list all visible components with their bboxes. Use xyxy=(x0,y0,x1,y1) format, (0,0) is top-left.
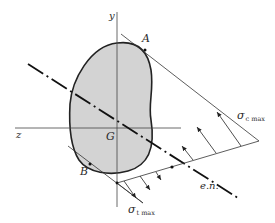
sigma-c-subscript: c max xyxy=(246,115,265,123)
sigma-c-max-label: σc max xyxy=(237,110,265,123)
sigma-c-symbol: σ xyxy=(237,109,245,122)
z-axis-label: z xyxy=(16,130,21,140)
stress-diagram xyxy=(0,0,275,223)
point-a-dot xyxy=(144,49,147,52)
sigma-t-max-label: σt max xyxy=(128,204,155,217)
neutral-point xyxy=(170,165,173,168)
cross-section xyxy=(70,43,153,174)
y-axis-label: y xyxy=(109,11,115,21)
sigma-t-subscript: t max xyxy=(137,209,155,217)
base-corner-dot xyxy=(116,182,119,185)
point-a-label: A xyxy=(142,33,150,44)
centroid-label: G xyxy=(106,131,115,142)
stress-edge-tension xyxy=(117,183,143,203)
point-b-dot xyxy=(89,163,92,166)
neutral-axis-label: e.n. xyxy=(200,181,219,191)
point-b-label: B xyxy=(80,166,88,177)
sigma-t-symbol: σ xyxy=(128,203,136,216)
compression-arrows xyxy=(182,112,241,160)
tension-arrows xyxy=(124,172,161,198)
